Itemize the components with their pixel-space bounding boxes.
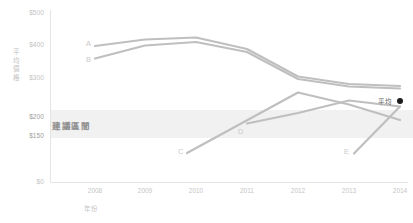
y-tick-150: $150 (8, 132, 44, 139)
x-axis-title: 年份 (84, 203, 98, 213)
x-tick-2011: 2011 (227, 187, 267, 194)
x-tick-2014: 2014 (380, 187, 413, 194)
y-tick-400: $400 (8, 41, 44, 48)
x-tick-2009: 2009 (125, 187, 165, 194)
series-label-b: B (86, 55, 91, 64)
series-label-c: C (178, 147, 183, 156)
series-label-a: A (86, 39, 91, 48)
series-line-a (95, 38, 400, 87)
series-label-e: E (344, 147, 349, 156)
average-label: 平均 (378, 96, 392, 106)
x-tick-2008: 2008 (75, 187, 115, 194)
series-label-d: D (238, 127, 243, 136)
suggested-range-label: 建議區間 (52, 119, 90, 131)
suggested-range-band (50, 110, 413, 138)
y-tick-500: $500 (8, 9, 44, 16)
average-dot-marker (397, 98, 403, 104)
x-tick-2010: 2010 (176, 187, 216, 194)
x-tick-2013: 2013 (329, 187, 369, 194)
chart-container: $500 $400 $300 $200 $150 $0 平均價格 2008 20… (0, 0, 413, 223)
y-tick-200: $200 (8, 113, 44, 120)
y-tick-0: $0 (8, 178, 44, 185)
x-tick-2012: 2012 (278, 187, 318, 194)
y-axis-title: 平均價格 (12, 48, 21, 82)
